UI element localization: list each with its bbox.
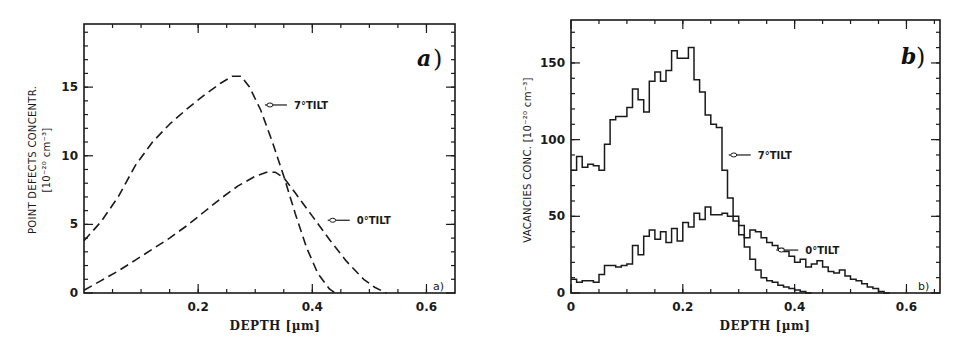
y-tick-label: 10 — [61, 149, 78, 163]
y-tick-label: 50 — [548, 209, 565, 223]
x-tick-label: 0.2 — [188, 300, 209, 314]
series-0tilt — [84, 172, 387, 293]
annotation-marker — [778, 248, 784, 252]
y-tick-label: 5 — [70, 217, 78, 231]
x-tick-label: 0.6 — [896, 300, 917, 314]
annotation-marker — [330, 218, 336, 222]
annotation-marker — [731, 153, 737, 157]
annotation-label: 0°TILT — [357, 215, 391, 226]
x-tick-label: 0.6 — [416, 300, 437, 314]
annotations-b: 7°TILT0°TILT — [729, 150, 840, 256]
axis-ticks-b: 00.20.40.6050100150 — [540, 20, 940, 314]
svg-text:a: a — [417, 45, 431, 71]
plot-lines-a — [84, 76, 387, 293]
panel-label-b: b ) — [901, 43, 925, 71]
x-tick-label: 0.2 — [672, 300, 693, 314]
annotations-a: 7°TILT0°TILT — [265, 100, 391, 226]
annotation-label: 0°TILT — [805, 245, 839, 256]
annotation-label: 7°TILT — [758, 150, 792, 161]
annotation-marker — [267, 103, 273, 107]
chart-panel-a: 0.20.40.6051015 7°TILT0°TILT DEPTH [µm] … — [27, 24, 455, 333]
x-tick-label: 0.4 — [784, 300, 805, 314]
x-tick-label: 0.4 — [302, 300, 323, 314]
svg-text:): ) — [433, 45, 442, 73]
axis-ticks-a: 0.20.40.6051015 — [61, 24, 455, 314]
corner-tag-b: b) — [918, 280, 929, 293]
y-axis-title-a-line1: POINT DEFECTS CONCENTR. — [27, 86, 38, 234]
series-0tilt — [571, 207, 890, 293]
x-axis-title-a: DEPTH [µm] — [230, 319, 321, 333]
svg-text:b: b — [901, 43, 916, 69]
plot-lines-b — [571, 48, 890, 293]
series-7tilt — [571, 48, 811, 293]
y-axis-title-b: VACANCIES CONC. [10⁻²⁰ cm⁻³] — [522, 77, 533, 243]
x-tick-label: 0 — [567, 300, 575, 314]
figure: 0.20.40.6051015 7°TILT0°TILT DEPTH [µm] … — [0, 0, 971, 353]
y-tick-label: 0 — [557, 286, 565, 300]
svg-text:): ) — [916, 43, 925, 71]
panel-label-a: a ) — [417, 45, 442, 73]
y-tick-label: 15 — [61, 80, 78, 94]
plot-frame-b — [571, 20, 940, 293]
y-tick-label: 100 — [540, 133, 565, 147]
y-tick-label: 0 — [70, 286, 78, 300]
y-tick-label: 150 — [540, 56, 565, 70]
x-axis-title-b: DEPTH [µm] — [720, 319, 811, 333]
chart-panel-b: 00.20.40.6050100150 7°TILT0°TILT DEPTH [… — [522, 20, 940, 333]
annotation-label: 7°TILT — [294, 100, 328, 111]
corner-tag-a: a) — [433, 280, 444, 293]
y-axis-title-a-line2: [10⁻²⁰ cm⁻³] — [41, 127, 52, 192]
